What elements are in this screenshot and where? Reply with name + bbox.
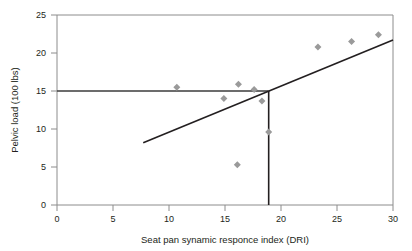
data-point [173,84,180,91]
data-point [265,129,272,136]
data-point-series [173,31,382,168]
chart-figure: 0 5 10 15 20 25 0 5 10 15 20 25 30 [0,0,412,251]
y-tick-label-0: 0 [41,200,46,210]
scatter-plot: 0 5 10 15 20 25 0 5 10 15 20 25 30 [0,0,412,251]
data-point [258,97,265,104]
x-tick-label-15: 15 [220,214,230,224]
x-tick-label-30: 30 [388,214,398,224]
x-tick-label-5: 5 [110,214,115,224]
y-axis-ticks [51,15,57,205]
x-tick-label-25: 25 [332,214,342,224]
data-point [234,161,241,168]
data-point [375,31,382,38]
data-point [235,81,242,88]
y-tick-label-15: 15 [36,86,46,96]
y-tick-label-5: 5 [41,162,46,172]
reference-lines [57,91,269,205]
y-axis-title: Pelvic load (100 lbs) [9,67,20,153]
y-axis-tick-labels: 0 5 10 15 20 25 [36,10,46,210]
data-point [220,95,227,102]
plot-frame [57,15,393,205]
x-tick-label-20: 20 [276,214,286,224]
y-tick-label-10: 10 [36,124,46,134]
x-axis-ticks [57,205,393,211]
data-point [348,38,355,45]
y-tick-label-25: 25 [36,10,46,20]
x-axis-tick-labels: 0 5 10 15 20 25 30 [54,214,398,224]
data-point [251,86,258,93]
x-tick-label-10: 10 [164,214,174,224]
x-axis-title: Seat pan synamic responce index (DRI) [141,234,309,245]
x-tick-label-0: 0 [54,214,59,224]
data-point [314,43,321,50]
y-tick-label-20: 20 [36,48,46,58]
